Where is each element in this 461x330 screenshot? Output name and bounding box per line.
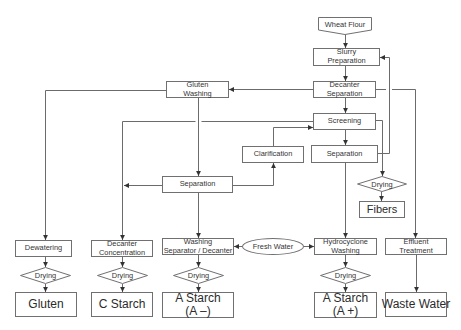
node-waste-water: Waste Water (385, 292, 447, 317)
node-effluent-treatment: Effluent Treatment (385, 238, 447, 255)
node-screening: Screening (313, 113, 376, 130)
node-label: Drying (357, 176, 407, 192)
node-label: C Starch (99, 298, 146, 311)
node-label: Washing (331, 247, 359, 256)
edge-clarification-to-screening (274, 128, 314, 147)
node-a-starch-plus: A Starch (A +) (314, 292, 377, 318)
edge-separation-to-clarification (233, 163, 274, 186)
node-label: Drying (20, 267, 71, 284)
node-separation-gluten: Separation (162, 176, 233, 193)
node-a-starch-minus: A Starch (A –) (162, 292, 234, 318)
node-label: (A +) (333, 305, 359, 318)
node-label: Separation (327, 90, 363, 99)
node-gluten-washing: Gluten Washing (166, 81, 229, 98)
edge-separation-to-slurry (378, 58, 390, 154)
node-label: (A –) (185, 305, 210, 318)
node-label: Clarification (254, 150, 293, 159)
node-c-starch: C Starch (91, 292, 153, 317)
node-decanter-separation: Decanter Separation (313, 81, 376, 98)
node-label: Screening (328, 117, 361, 126)
node-drying-a-starch-plus: Drying (320, 267, 371, 284)
node-label: Treatment (399, 247, 432, 256)
node-label: Separation (180, 180, 216, 189)
edge-gluten-washing-to-dewatering (46, 91, 167, 241)
node-drying-a-starch-minus: Drying (173, 267, 224, 284)
node-drying-gluten: Drying (20, 267, 71, 284)
node-dewatering: Dewatering (15, 240, 72, 257)
node-fresh-water: Fresh Water (242, 238, 304, 255)
node-drying-fibers: Drying (357, 176, 407, 192)
node-label: Washing (183, 90, 211, 99)
node-label: Wheat Flour (318, 17, 372, 31)
node-label: Separation (327, 150, 363, 159)
wheat-starch-process-diagram: Wheat Flour Slurry Preparation Decanter … (0, 0, 461, 330)
node-separation-main: Separation (311, 145, 378, 163)
node-drying-c-starch: Drying (97, 267, 148, 284)
node-label: Drying (320, 267, 371, 284)
node-label: Separator / Decanter (164, 247, 233, 256)
node-label: Gluten (28, 298, 63, 311)
node-label: Fibers (367, 205, 398, 214)
node-gluten-product: Gluten (15, 292, 77, 317)
node-wheat-flour: Wheat Flour (318, 17, 372, 35)
node-label: Concentration (99, 249, 145, 258)
node-decanter-concentration: Decanter Concentration (91, 240, 153, 257)
node-clarification: Clarification (242, 146, 304, 163)
node-slurry-preparation: Slurry Preparation (313, 48, 380, 66)
node-label: Preparation (327, 57, 365, 66)
node-label: Dewatering (25, 244, 62, 253)
node-label: Waste Water (382, 298, 450, 311)
node-washing-separator-decanter: Washing Separator / Decanter (162, 238, 234, 255)
node-hydrocyclone-washing: Hydrocyclone Washing (314, 238, 377, 255)
node-fibers: Fibers (359, 201, 405, 218)
node-label: Drying (173, 267, 224, 284)
node-label: Fresh Water (253, 242, 293, 251)
node-label: Drying (97, 267, 148, 284)
